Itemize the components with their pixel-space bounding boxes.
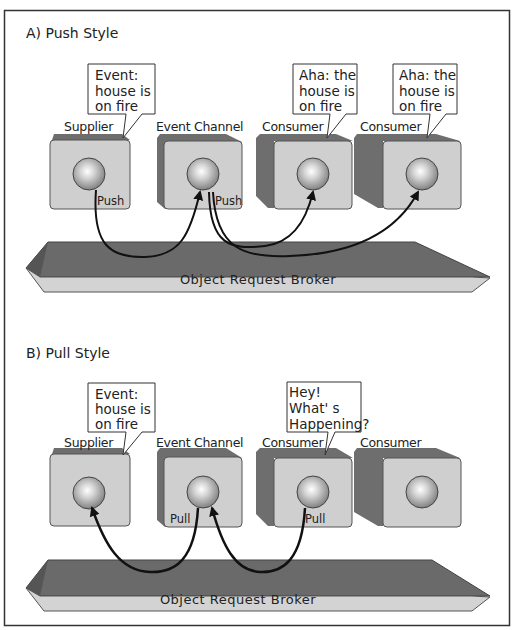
component-label: Supplier: [64, 119, 114, 134]
svg-text:house is: house is: [95, 401, 151, 417]
svg-text:Event:: Event:: [95, 67, 138, 83]
component-label: Consumer: [262, 435, 324, 450]
action-label: Push: [97, 194, 124, 208]
svg-text:Aha: the: Aha: the: [399, 67, 456, 83]
svg-text:Event:: Event:: [95, 386, 138, 402]
component-label: Event Channel: [156, 119, 243, 134]
svg-text:house is: house is: [95, 83, 151, 99]
diagram-canvas: A) Push Style Object Request Broker Supp…: [0, 0, 514, 630]
orb-bus: Object Request Broker: [26, 242, 490, 292]
svg-text:on fire: on fire: [399, 98, 442, 114]
svg-text:Happening?: Happening?: [289, 416, 369, 432]
action-label: Push: [215, 194, 242, 208]
section-title: B) Pull Style: [26, 345, 110, 361]
event-channel-box: Event Channel Pull: [156, 435, 243, 527]
component-label: Consumer: [262, 119, 324, 134]
svg-text:Hey!: Hey!: [289, 384, 321, 400]
svg-text:Aha: the: Aha: the: [299, 67, 356, 83]
svg-text:What' s: What' s: [289, 400, 340, 416]
component-label: Supplier: [64, 435, 114, 450]
orb-bus: Object Request Broker: [26, 560, 490, 611]
supplier-box: Supplier: [50, 435, 130, 526]
svg-text:on fire: on fire: [299, 98, 342, 114]
orb-label: Object Request Broker: [180, 272, 336, 287]
component-label: Consumer: [360, 119, 422, 134]
component-label: Event Channel: [156, 435, 243, 450]
action-label: Pull: [170, 512, 190, 526]
svg-text:on fire: on fire: [95, 416, 138, 432]
action-label: Pull: [305, 512, 325, 526]
svg-text:house is: house is: [299, 83, 355, 99]
section-title: A) Push Style: [26, 25, 118, 41]
svg-text:house is: house is: [399, 83, 455, 99]
svg-text:on fire: on fire: [95, 98, 138, 114]
orb-label: Object Request Broker: [160, 592, 316, 607]
component-label: Consumer: [360, 435, 422, 450]
